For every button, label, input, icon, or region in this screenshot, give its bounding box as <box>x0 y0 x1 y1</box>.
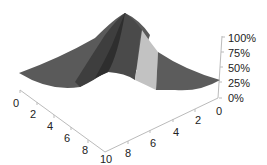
y-tick-labels: 8 6 4 2 0 <box>125 105 222 159</box>
svg-text:8: 8 <box>125 147 131 159</box>
svg-text:0%: 0% <box>228 92 244 104</box>
svg-text:8: 8 <box>82 144 88 156</box>
svg-text:25%: 25% <box>228 77 250 89</box>
svg-text:75%: 75% <box>228 47 250 59</box>
surface-plot: 0 2 4 6 8 10 8 6 4 2 0 0% 25% 50% 75% 10… <box>0 0 267 165</box>
svg-text:6: 6 <box>150 137 156 149</box>
z-tick-labels: 0% 25% 50% 75% 100% <box>228 32 256 104</box>
svg-text:0: 0 <box>216 105 222 117</box>
svg-text:0: 0 <box>13 97 19 109</box>
svg-text:4: 4 <box>47 120 53 132</box>
svg-text:2: 2 <box>195 114 201 126</box>
svg-text:50%: 50% <box>228 62 250 74</box>
surface <box>19 13 220 90</box>
svg-text:100%: 100% <box>228 32 256 44</box>
svg-text:4: 4 <box>173 126 179 138</box>
svg-text:6: 6 <box>64 132 70 144</box>
x-tick-labels: 0 2 4 6 8 10 <box>13 97 112 165</box>
svg-text:10: 10 <box>100 153 112 165</box>
svg-text:2: 2 <box>30 108 36 120</box>
